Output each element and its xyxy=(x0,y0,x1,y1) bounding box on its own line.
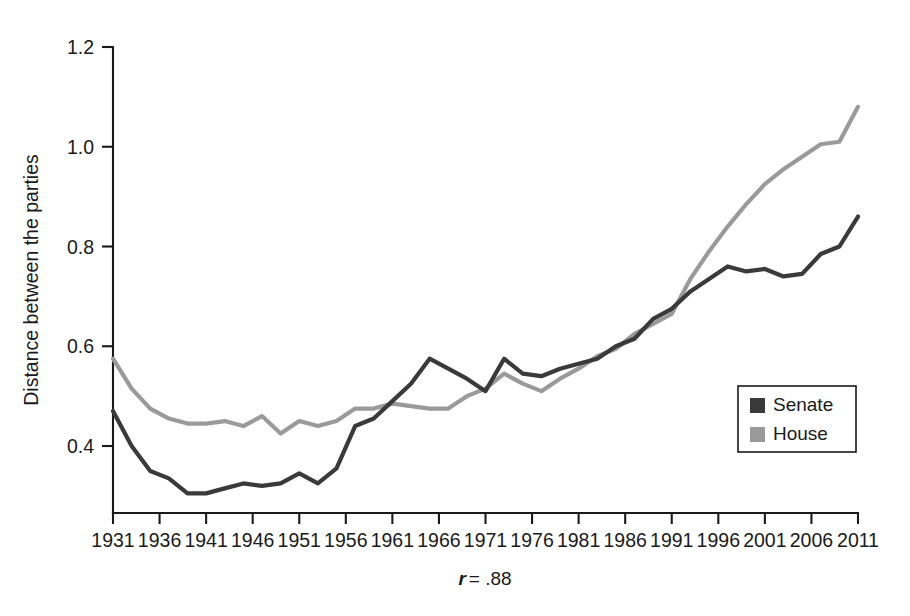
x-tick-label: 2011 xyxy=(837,529,879,551)
y-axis-tick-labels: 0.40.60.81.01.2 xyxy=(67,36,94,457)
x-tick-label: 1951 xyxy=(278,529,321,551)
legend-label-house: House xyxy=(773,423,828,444)
x-tick-label: 1936 xyxy=(138,529,181,551)
caption-r-value: = .88 xyxy=(469,568,512,589)
x-tick-label: 1961 xyxy=(371,529,414,551)
x-tick-label: 2006 xyxy=(790,529,833,551)
y-tick-label: 0.4 xyxy=(67,435,94,457)
y-tick-label: 0.6 xyxy=(67,335,94,357)
y-tick-label: 1.0 xyxy=(67,136,94,158)
x-tick-label: 1981 xyxy=(557,529,600,551)
x-tick-label: 1976 xyxy=(510,529,553,551)
x-tick-label: 1991 xyxy=(650,529,693,551)
x-tick-label: 1966 xyxy=(417,529,460,551)
svg-text:r= .88: r= .88 xyxy=(458,568,511,589)
x-tick-label: 1996 xyxy=(697,529,740,551)
x-axis-ticks xyxy=(113,513,858,524)
line-chart: 0.40.60.81.01.2 193119361941194619511956… xyxy=(0,0,910,616)
x-tick-label: 1946 xyxy=(231,529,274,551)
caption-r-symbol: r xyxy=(458,568,467,589)
legend-swatch-house xyxy=(750,427,765,442)
x-axis-tick-labels: 1931193619411946195119561961196619711976… xyxy=(91,529,879,551)
y-tick-label: 0.8 xyxy=(67,236,94,258)
chart-legend: SenateHouse xyxy=(738,386,856,452)
x-tick-label: 1956 xyxy=(324,529,367,551)
x-tick-label: 1986 xyxy=(603,529,646,551)
y-axis-title: Distance between the parties xyxy=(20,154,42,406)
y-axis-ticks xyxy=(102,47,113,446)
axis-group: 0.40.60.81.01.2 193119361941194619511956… xyxy=(67,36,879,551)
x-tick-label: 1931 xyxy=(91,529,134,551)
correlation-caption: r= .88 xyxy=(458,568,511,589)
legend-label-senate: Senate xyxy=(773,394,833,415)
x-tick-label: 1971 xyxy=(464,529,507,551)
legend-swatch-senate xyxy=(750,398,765,413)
chart-figure: 0.40.60.81.01.2 193119361941194619511956… xyxy=(0,0,910,616)
x-tick-label: 1941 xyxy=(184,529,227,551)
x-tick-label: 2001 xyxy=(743,529,786,551)
y-tick-label: 1.2 xyxy=(67,36,94,58)
